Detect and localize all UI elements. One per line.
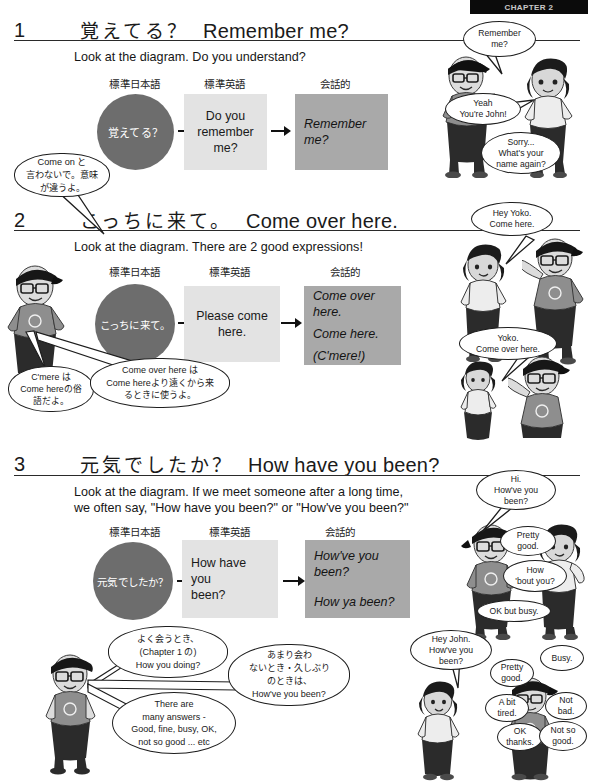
bubble-remember-me: Remember me? xyxy=(463,21,536,57)
s1-box-standard-english: Do you remember me? xyxy=(184,94,267,170)
s2-box-casual: Come over here. Come here. (C'mere!) xyxy=(304,286,401,365)
bubble-yeah-youre-john: Yeah You're John! xyxy=(445,93,521,125)
chapter-header-label: CHAPTER 2 xyxy=(474,0,584,13)
s3-box2-line1: How've you been? xyxy=(314,548,401,580)
s3-box1-line2: been? xyxy=(191,587,225,603)
s1-circle-jp: 覚えてる？ xyxy=(97,94,174,170)
bubble-pretty-good: Pretty good. xyxy=(500,526,556,556)
rarely-meet-note: あまり会わ ないとき・久しぶり のときは、 How've you been? xyxy=(228,644,350,706)
section-3-title: 元気でしたか？How have you been? xyxy=(80,450,440,477)
section-2-number-underline xyxy=(14,230,33,231)
s3-box2-line2: How ya been? xyxy=(314,594,395,610)
section-1-title: 覚えてる？Remember me? xyxy=(80,16,349,43)
bubble-busy: Busy. xyxy=(540,645,584,671)
s1-box1-line1: Do you xyxy=(206,108,245,124)
bubble-not-bad: Not bad. xyxy=(545,692,587,720)
s1-box1-line3: me? xyxy=(213,140,237,156)
s3-arrow-2 xyxy=(283,576,305,586)
s3-circle-jp: 元気でしたか？ xyxy=(93,542,173,620)
s2-arrow-2 xyxy=(281,318,302,328)
character-yoko-bottom-right xyxy=(412,678,464,781)
section-1-number: 1 xyxy=(14,19,25,42)
come-over-here-note: Come over here は Come hereより遠くから来 るときに使う… xyxy=(90,358,230,408)
bubble-a-bit-tired: A bit tired. xyxy=(485,694,529,722)
bubble-yoko-come-over-here: Yoko. Come over here. xyxy=(459,327,557,360)
s1-label-casual: 会話的 xyxy=(295,76,375,91)
s2-label-en: 標準英語 xyxy=(190,264,270,279)
come-on-note: Come on と 言わないで。意味 が違うよ。 xyxy=(14,153,110,197)
bubble-hi-howve-you-been: Hi. How've you been? xyxy=(476,470,556,510)
page-canvas: CHAPTER 2 1 覚えてる？Remember me? Look at th… xyxy=(0,0,594,781)
s2-box2-line3: (C'mere!) xyxy=(313,348,365,364)
s1-label-jp: 標準日本語 xyxy=(95,76,175,91)
section-1-number-underline xyxy=(14,40,33,41)
bubble-hey-john-howve-you-been: Hey John. How've you been? xyxy=(410,630,492,670)
section-3-number-underline xyxy=(14,475,33,476)
s2-box2-line2: Come here. xyxy=(313,326,379,342)
bubble-ok-but-busy: OK but busy. xyxy=(477,600,551,622)
s2-box-standard-english: Please come here. xyxy=(184,286,280,362)
section-1-title-en: Remember me? xyxy=(203,20,349,42)
section-1-instruction: Look at the diagram. Do you understand? xyxy=(74,49,306,65)
bubble-ok-thanks: OK thanks. xyxy=(497,723,543,751)
bubble-hey-yoko-come-here: Hey Yoko. Come here. xyxy=(471,202,553,236)
s1-arrow-2 xyxy=(271,126,291,136)
s3-box-casual: How've you been? How ya been? xyxy=(305,540,410,618)
s3-label-en: 標準英語 xyxy=(190,524,270,539)
s1-label-en: 標準英語 xyxy=(185,76,265,91)
bubble-not-so-good: Not so good. xyxy=(539,721,587,751)
s2-box1-line1: Please come here. xyxy=(194,308,270,340)
s1-box-casual: Remember me? xyxy=(295,94,388,170)
character-yoko-s2-lower xyxy=(455,358,501,440)
bubble-pretty-good-2: Pretty good. xyxy=(490,659,534,687)
s2-box2-line1: Come over here. xyxy=(313,288,392,320)
bubble-sorry-name-again: Sorry... What's your name again? xyxy=(481,132,561,174)
s3-label-jp: 標準日本語 xyxy=(95,524,175,539)
section-2-number: 2 xyxy=(14,209,25,232)
s3-box1-line1: How have you xyxy=(191,555,269,587)
s3-label-casual: 会話的 xyxy=(300,524,380,539)
s2-label-jp: 標準日本語 xyxy=(95,264,175,279)
section-3-title-jp: 元気でしたか？ xyxy=(80,455,234,476)
section-3-number: 3 xyxy=(14,453,25,476)
often-meet-note: よく会うとき、 (Chapter 1 の) How you doing? xyxy=(108,626,228,678)
section-2-instruction: Look at the diagram. There are 2 good ex… xyxy=(74,239,363,255)
many-answers-note: There are many answers - Good, fine, bus… xyxy=(112,692,236,754)
cmere-note: C'mere は Come hereの俗 語だよ。 xyxy=(8,366,94,412)
section-3-instruction: Look at the diagram. If we meet someone … xyxy=(74,484,408,516)
section-3-title-en: How have you been? xyxy=(248,454,440,476)
section-2-title: こっちに来て。Come over here. xyxy=(80,206,398,233)
bubble-hey-yoko-tail xyxy=(500,236,536,268)
section-1-title-jp: 覚えてる？ xyxy=(80,21,189,42)
bubble-how-bout-you: How 'bout you? xyxy=(503,560,567,592)
s2-label-casual: 会話的 xyxy=(305,264,385,279)
section-2-title-en: Come over here. xyxy=(246,210,398,232)
s3-box-standard-english: How have you been? xyxy=(182,540,278,618)
s1-box2-line1: Remember me? xyxy=(304,116,379,148)
s1-box1-line2: remember xyxy=(197,124,253,140)
